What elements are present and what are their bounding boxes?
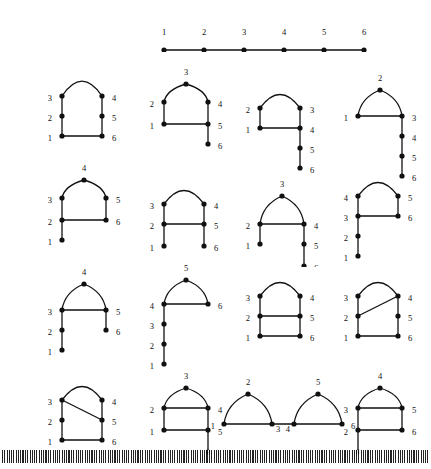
- graph-node-label: 3: [48, 397, 52, 407]
- graph-node: [399, 153, 404, 158]
- graph-node-label: 5: [112, 113, 116, 123]
- graph-node-label: 2: [150, 405, 154, 415]
- graph-node: [297, 333, 302, 338]
- graph-edge: [62, 387, 102, 401]
- graph-edge: [186, 84, 208, 102]
- graph-figure-arc-2-3-tail-4-5-6: 123456: [228, 78, 323, 178]
- graph-node: [377, 385, 382, 390]
- barcode-strip: [2, 450, 429, 463]
- graph-figure-arc-apex-3-rung-2-4-tails: 123456: [228, 172, 323, 267]
- graph-node-label: 5: [184, 263, 188, 273]
- graph-node: [205, 99, 210, 104]
- graph-edge: [260, 283, 300, 297]
- graph-node-label: 2: [246, 313, 250, 323]
- graph-node-label: 3: [150, 321, 154, 331]
- graph-node: [269, 421, 274, 426]
- graph-node-label: 2: [246, 221, 250, 231]
- graph-node: [161, 405, 166, 410]
- graph-node: [297, 125, 302, 130]
- graph-node-label: 4: [412, 133, 417, 143]
- graph-node-label: 1: [344, 113, 348, 123]
- graph-figure-arc-apex-4-rung-3-5-tails: 123456: [30, 262, 125, 362]
- graph-edge: [260, 196, 282, 224]
- graph-node-label: 1: [150, 243, 154, 253]
- graph-node-label: 4: [112, 397, 117, 407]
- graph-node: [59, 133, 64, 138]
- graph-node: [399, 427, 404, 432]
- graph-node: [161, 201, 166, 206]
- graph-node-label: 6: [310, 333, 314, 343]
- graph-figure-arc-apex-2-tail-4-5-6: 123456: [326, 66, 421, 181]
- graph-node: [161, 121, 166, 126]
- graph-edge: [164, 280, 186, 304]
- graph-node: [161, 321, 166, 326]
- graph-edge: [62, 180, 84, 198]
- graph-node: [399, 405, 404, 410]
- graph-node-label: 1: [162, 27, 166, 37]
- graph-node: [161, 99, 166, 104]
- graph-node-label: 5: [310, 145, 314, 155]
- graph-node: [395, 293, 400, 298]
- graph-node-label: 6: [218, 301, 222, 311]
- graph-node-label: 6: [112, 437, 116, 447]
- graph-node: [355, 193, 360, 198]
- graph-node: [315, 391, 320, 396]
- graph-node-label: 2: [344, 427, 348, 437]
- graph-node-label: 1: [246, 125, 250, 135]
- graph-figure-arc-3-4-ladder-two-rungs: 123456: [228, 268, 323, 348]
- graph-node-label: 6: [408, 213, 412, 223]
- graph-node: [355, 293, 360, 298]
- graph-node-label: 2: [48, 113, 52, 123]
- graph-node: [399, 133, 404, 138]
- graph-node-label: 2: [378, 73, 382, 83]
- graph-node: [257, 293, 262, 298]
- graph-node-label: 1: [246, 333, 250, 343]
- graph-node: [59, 195, 64, 200]
- graph-node: [395, 213, 400, 218]
- graph-edge: [164, 388, 186, 408]
- graph-node-label: 6: [314, 263, 318, 267]
- graph-node: [183, 277, 188, 282]
- graph-node-label: 3: [246, 293, 250, 303]
- graph-figure-arc-apex-5-rung-4-6-tail-3-2-1: 123456: [132, 262, 227, 372]
- graph-node: [103, 195, 108, 200]
- graph-node: [161, 361, 166, 366]
- graph-node: [59, 327, 64, 332]
- graph-figure-arc-apex-4-rungs-3-5-and-2-6-tail-1: 123456: [326, 368, 421, 463]
- graph-edge: [282, 196, 304, 224]
- graph-node: [81, 177, 86, 182]
- graph-figure-path-1-2-3-4-5-6: 123456: [136, 12, 386, 52]
- graph-node-label: 2: [48, 327, 52, 337]
- graph-node: [245, 391, 250, 396]
- graph-node: [103, 307, 108, 312]
- graph-node: [257, 333, 262, 338]
- graph-node-label: 2: [344, 313, 348, 323]
- graph-node-label: 4: [310, 125, 315, 135]
- graph-figure-arc-apex-4-tail-1: 123456: [30, 158, 125, 253]
- graph-node-label: 3: [344, 213, 348, 223]
- graph-node: [241, 47, 246, 52]
- graph-node: [103, 327, 108, 332]
- graph-node: [395, 333, 400, 338]
- graph-node-label: 6: [412, 427, 416, 437]
- graph-node-label: 5: [408, 193, 412, 203]
- graph-node-label: 1: [48, 347, 52, 357]
- graph-node-label: 5: [214, 221, 218, 231]
- graph-node-label: 1: [211, 421, 215, 431]
- graph-node-label: 5: [314, 241, 318, 251]
- graph-node: [301, 221, 306, 226]
- graph-node: [161, 427, 166, 432]
- graph-figure-arc-3-4-diagonal-2-4-bottom-1-6: 123456: [326, 268, 421, 348]
- graph-node: [59, 347, 64, 352]
- graph-node-label: 1: [48, 133, 52, 143]
- graph-node: [355, 113, 360, 118]
- graph-edge: [294, 394, 318, 424]
- graph-node-label: 4: [150, 301, 155, 311]
- graph-node-label: 4: [218, 99, 223, 109]
- graph-node: [201, 201, 206, 206]
- graph-node-label: 5: [408, 313, 412, 323]
- graph-node-label: 2: [150, 341, 154, 351]
- graph-canvas: 123456: [228, 78, 323, 178]
- graph-node: [355, 233, 360, 238]
- graph-node: [297, 105, 302, 110]
